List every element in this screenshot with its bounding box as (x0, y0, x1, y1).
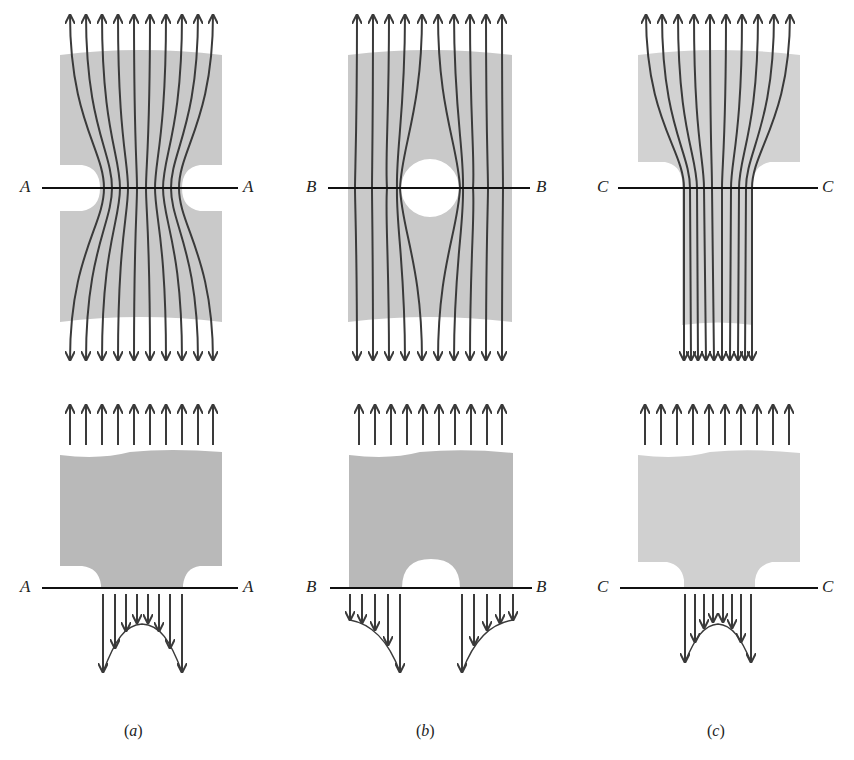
caption-b: (b) (416, 722, 435, 740)
half-plate-a (60, 450, 222, 588)
half-plate-b (349, 450, 513, 588)
section-label: A (20, 577, 30, 597)
applied-load-arrows (70, 405, 789, 445)
stress-concentration-diagram (0, 0, 854, 760)
section-label: C (597, 177, 608, 197)
section-label: A (243, 177, 253, 197)
stress-envelopes (103, 620, 751, 672)
half-plate-c (638, 450, 800, 588)
panel-a-flow (42, 15, 238, 360)
section-label: C (597, 577, 608, 597)
panel-b-flow (328, 15, 530, 360)
section-label: C (822, 577, 833, 597)
section-label: B (536, 177, 546, 197)
panel-c-flow (618, 15, 818, 360)
caption-c: (c) (707, 722, 725, 740)
section-label: A (20, 177, 30, 197)
section-label: A (243, 577, 253, 597)
section-label: B (306, 577, 316, 597)
caption-a: (a) (124, 722, 143, 740)
stress-distribution-arrows (103, 594, 751, 672)
section-label: B (306, 177, 316, 197)
plate-a-notched (60, 50, 222, 322)
section-label: B (536, 577, 546, 597)
section-label: C (822, 177, 833, 197)
